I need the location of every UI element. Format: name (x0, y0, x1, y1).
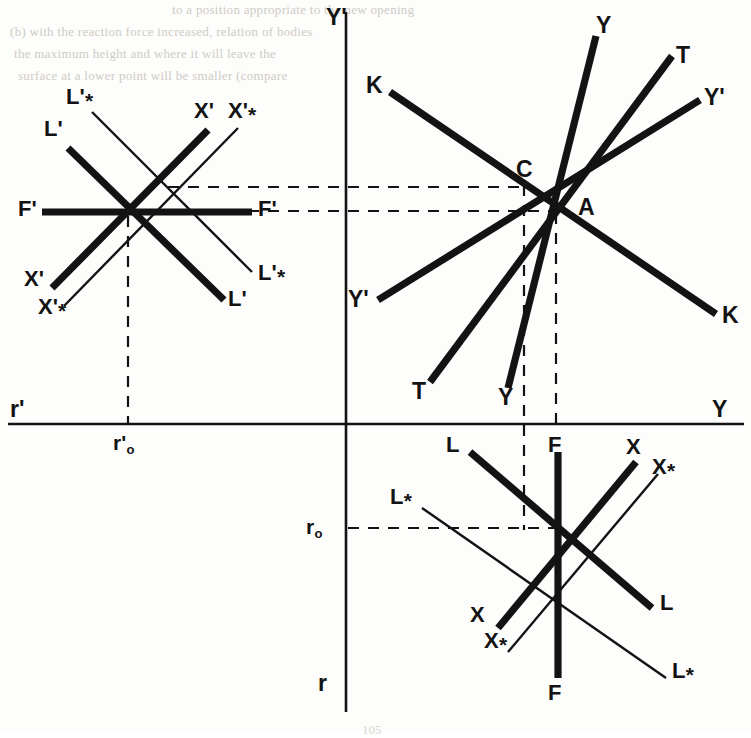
label-X-prime-upper: X' (194, 100, 214, 122)
star-glyph: * (248, 103, 256, 126)
dashed-guide-group (128, 185, 556, 530)
label-L-prime-lower: L' (228, 288, 247, 310)
label-Y-lower: Y (498, 386, 513, 409)
label-X-upper: X (626, 436, 641, 458)
page-number: 105 (362, 722, 382, 738)
label-L-prime-star-lower-text: L' (258, 260, 277, 285)
line-T (430, 56, 672, 382)
label-L-prime-star-upper: L'* (66, 86, 93, 108)
star-glyph: * (85, 89, 93, 112)
star-glyph: * (58, 299, 66, 322)
tick-r-prime-sub: o (126, 442, 134, 457)
axis-group (8, 12, 744, 712)
star-glyph: * (404, 489, 412, 512)
tick-r-sub: o (314, 526, 322, 541)
line-X (498, 462, 636, 628)
label-Y-prime-right: Y' (704, 86, 725, 109)
label-K-lower: K (722, 304, 739, 327)
star-glyph: * (686, 663, 694, 686)
cluster-lower-right (422, 452, 666, 678)
label-L-prime-upper: L' (44, 118, 63, 140)
tick-label-r-zero: ro (306, 516, 322, 537)
axis-label-r-bottom: r (318, 672, 327, 695)
axis-label-Y-right: Y (712, 398, 727, 421)
label-X-lower: X (470, 604, 485, 626)
label-L-prime-star-upper-text: L' (66, 84, 85, 109)
cluster-upper-left-primed (42, 112, 252, 306)
tick-r-prime-base: r (113, 431, 121, 454)
label-X-prime-star-lower: X'* (38, 296, 66, 318)
label-X-prime-star-upper-text: X' (228, 98, 248, 123)
label-L-star-upper: L* (390, 486, 412, 508)
line-K (390, 92, 716, 314)
label-F-prime-left: F' (18, 198, 37, 220)
label-X-prime-star-upper: X'* (228, 100, 256, 122)
label-T-lower: T (412, 380, 426, 403)
point-label-C: C (516, 158, 533, 181)
star-glyph: * (277, 265, 285, 288)
label-L-star-lower-text: L (672, 658, 685, 683)
label-L-lower: L (660, 592, 673, 614)
point-label-A: A (578, 196, 595, 219)
label-L-star-lower: L* (672, 660, 694, 682)
axis-label-Y-prime-top: Y' (326, 6, 347, 29)
axis-label-r-prime-left: r' (10, 398, 24, 421)
label-X-star-lower: X* (484, 630, 507, 652)
line-X-prime-star (64, 128, 238, 306)
tick-label-r-prime-zero: r'o (113, 432, 134, 453)
label-X-prime-lower: X' (24, 268, 44, 290)
label-K-upper: K (366, 74, 383, 97)
label-T-upper: T (676, 44, 690, 67)
label-X-star-upper-text: X (652, 454, 667, 479)
star-glyph: * (667, 459, 675, 482)
label-F-top: F (548, 434, 561, 456)
label-X-star-lower-text: X (484, 628, 499, 653)
label-L-star-upper-text: L (390, 484, 403, 509)
star-glyph: * (499, 633, 507, 656)
label-Y-upper: Y (596, 14, 611, 37)
label-F-bottom: F (548, 682, 561, 704)
label-X-prime-star-lower-text: X' (38, 294, 58, 319)
label-Y-prime-left: Y' (348, 288, 369, 311)
tick-r-base: r (306, 515, 314, 538)
label-X-star-upper: X* (652, 456, 675, 478)
label-L-upper: L (446, 434, 459, 456)
label-L-prime-star-lower: L'* (258, 262, 285, 284)
label-F-prime-right: F' (258, 198, 277, 220)
